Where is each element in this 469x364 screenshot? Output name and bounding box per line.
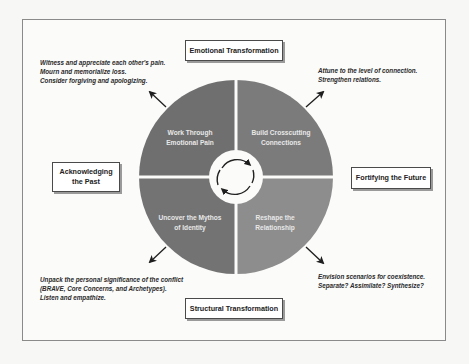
quadrant-label-line: Uncover the Mythos xyxy=(158,213,221,223)
quadrant-label-line: Emotional Pain xyxy=(166,138,214,148)
note-line: Consider forgiving and apologizing. xyxy=(40,76,165,85)
note-line: Attune to the level of connection. xyxy=(318,66,417,75)
note-line: Strengthen relations. xyxy=(318,75,417,84)
quadrant-label-line: Work Through xyxy=(166,128,214,138)
note-bottom-right: Envision scenarios for coexistence. Sepa… xyxy=(318,272,425,290)
box-fortifying-the-future: Fortifying the Future xyxy=(351,167,431,189)
box-emotional-transformation: Emotional Transformation xyxy=(185,40,283,61)
quadrant-label-line: of Identity xyxy=(158,223,221,233)
quadrant-label-bottom-right: Reshape the Relationship xyxy=(255,213,295,232)
box-structural-transformation: Structural Transformation xyxy=(185,298,283,319)
arrow-bottom-right xyxy=(306,247,323,263)
quadrant-label-line: Connections xyxy=(252,138,311,148)
note-top-right: Attune to the level of connection. Stren… xyxy=(318,66,417,84)
note-line: Listen and empathize. xyxy=(40,293,183,302)
quadrant-label-line: Build Crosscutting xyxy=(252,128,311,138)
box-label: the Past xyxy=(72,177,100,187)
arrow-top-right xyxy=(306,92,323,107)
box-label: Acknowledging xyxy=(59,167,112,177)
note-line: (BRAVE, Core Concerns, and Archetypes). xyxy=(40,284,183,293)
note-bottom-left: Unpack the personal significance of the … xyxy=(40,275,183,302)
arrow-top-left xyxy=(150,92,166,107)
box-label: Emotional Transformation xyxy=(189,46,278,56)
quadrant-label-top-left: Work Through Emotional Pain xyxy=(166,128,214,147)
box-acknowledging-the-past: Acknowledging the Past xyxy=(52,162,120,192)
note-line: Unpack the personal significance of the … xyxy=(40,275,183,284)
note-line: Mourn and memorialize loss. xyxy=(40,67,165,76)
quadrant-label-line: Reshape the xyxy=(255,213,295,223)
note-line: Separate? Assimilate? Synthesize? xyxy=(318,281,425,290)
diagram-stage: Work Through Emotional Pain Build Crossc… xyxy=(0,0,469,364)
note-line: Envision scenarios for coexistence. xyxy=(318,272,425,281)
box-label: Fortifying the Future xyxy=(356,173,426,183)
quadrant-label-line: Relationship xyxy=(255,223,295,233)
note-top-left: Witness and appreciate each other's pain… xyxy=(40,58,165,85)
quadrant-label-top-right: Build Crosscutting Connections xyxy=(252,128,311,147)
arrow-bottom-left xyxy=(150,247,166,262)
note-line: Witness and appreciate each other's pain… xyxy=(40,58,165,67)
quadrant-label-bottom-left: Uncover the Mythos of Identity xyxy=(158,213,221,232)
box-label: Structural Transformation xyxy=(190,304,278,314)
